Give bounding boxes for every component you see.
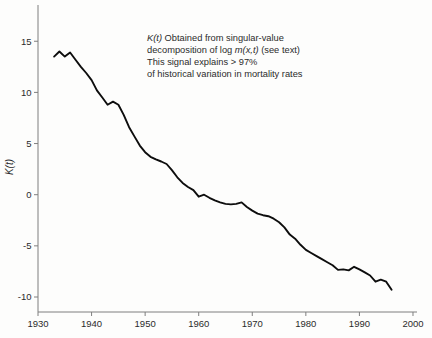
annotation-line: of historical variation in mortality rat…	[147, 69, 303, 79]
mortality-kt-figure: 19301940195019601970198019902000 151050-…	[0, 0, 432, 338]
x-tick-label: 1960	[188, 318, 209, 329]
kt-line-chart: 19301940195019601970198019902000 151050-…	[0, 0, 432, 338]
y-axis-ticks: 151050-5-10	[18, 36, 38, 303]
annotation-line: decomposition of log m(x,t) (see text)	[147, 45, 300, 55]
annotation-line: This signal explains > 97%	[147, 57, 257, 67]
x-tick-label: 1930	[27, 318, 48, 329]
y-tick-label: 15	[21, 36, 32, 47]
y-tick-label: 5	[26, 138, 31, 149]
y-axis-label: K(t)	[4, 159, 15, 175]
x-tick-label: 1950	[135, 318, 156, 329]
annotation-text-block: K(t) Obtained from singular-valuedecompo…	[147, 33, 303, 79]
x-tick-label: 2000	[402, 318, 423, 329]
x-axis-ticks: 19301940195019601970198019902000	[27, 312, 423, 329]
kt-data-curve	[54, 52, 392, 290]
annotation-line: K(t) Obtained from singular-value	[147, 33, 284, 43]
y-tick-label: 10	[21, 87, 32, 98]
y-tick-label: -5	[23, 240, 31, 251]
x-tick-label: 1970	[242, 318, 263, 329]
x-tick-label: 1990	[349, 318, 370, 329]
y-tick-label: -10	[18, 291, 32, 302]
y-tick-label: 0	[26, 189, 31, 200]
x-tick-label: 1940	[81, 318, 102, 329]
x-tick-label: 1980	[295, 318, 316, 329]
